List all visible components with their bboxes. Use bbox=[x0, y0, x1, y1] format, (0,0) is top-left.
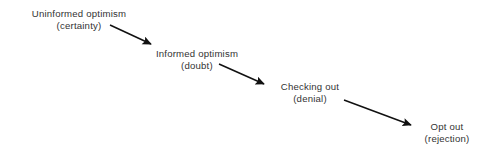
stage-label-uninformed-optimism: Uninformed optimism (certainty) bbox=[32, 8, 126, 32]
stage-title: Uninformed optimism bbox=[32, 8, 126, 20]
stage-label-opt-out: Opt out (rejection) bbox=[425, 121, 470, 145]
stage-title: Opt out bbox=[425, 121, 470, 133]
arrow-checking-out-to-opt-out bbox=[344, 100, 411, 125]
stage-title: Checking out bbox=[281, 81, 339, 93]
stage-title: Informed optimism bbox=[156, 48, 238, 60]
stage-subtitle: (denial) bbox=[281, 93, 339, 105]
stage-subtitle: (certainty) bbox=[32, 20, 126, 32]
stage-label-checking-out: Checking out (denial) bbox=[281, 81, 339, 105]
stage-label-informed-optimism: Informed optimism (doubt) bbox=[156, 48, 238, 72]
emotional-journey-diagram: Uninformed optimism (certainty) Informed… bbox=[0, 0, 478, 156]
stage-subtitle: (doubt) bbox=[156, 60, 238, 72]
stage-subtitle: (rejection) bbox=[425, 133, 470, 145]
